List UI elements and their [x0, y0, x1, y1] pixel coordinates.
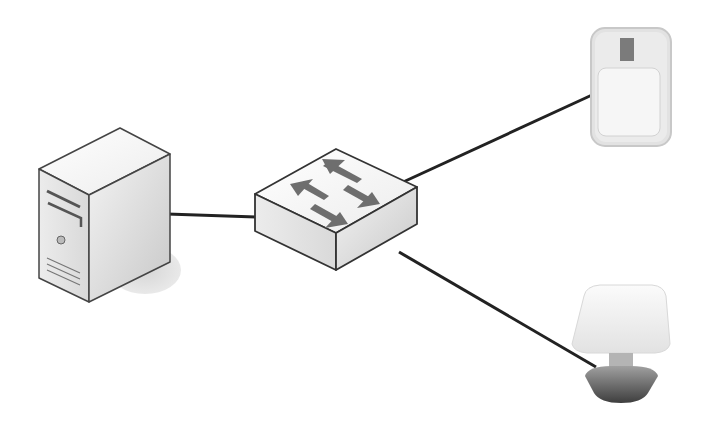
link-server-switch [167, 214, 257, 217]
server-power-button [57, 236, 65, 244]
lamp-base [585, 366, 658, 403]
sensor-lens [598, 68, 660, 136]
server-tower-icon[interactable] [39, 128, 181, 302]
network-diagram: Server Network Switch Motion Sensor Lamp [0, 0, 709, 434]
link-switch-lamp [399, 252, 596, 367]
motion-sensor-icon[interactable] [591, 28, 671, 146]
network-switch-icon[interactable] [255, 149, 417, 270]
lamp-shade [572, 285, 670, 353]
lamp-icon[interactable] [572, 285, 670, 403]
link-switch-sensor [401, 95, 592, 183]
sensor-indicator [620, 38, 634, 61]
